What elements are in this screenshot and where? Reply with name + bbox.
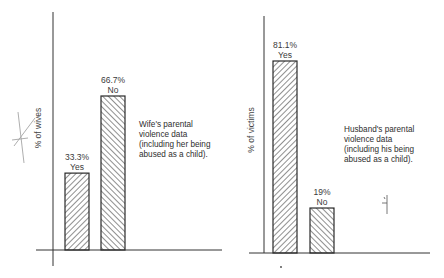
annotation: Wife's parental violence data (including… bbox=[139, 120, 213, 159]
bars: 81.1%Yes19%No bbox=[273, 40, 334, 253]
figure: % of wives 33.3%Yes66.7%No Wife's parent… bbox=[0, 0, 444, 278]
annotation-line: Husband's parental bbox=[344, 125, 414, 134]
value-label: 33.3% bbox=[65, 152, 90, 162]
chart-victims: % of victims 81.1%Yes19%No Husband's par… bbox=[246, 16, 430, 268]
annotation-line: violence data bbox=[139, 130, 188, 139]
chart-wives: % of wives 33.3%Yes66.7%No Wife's parent… bbox=[12, 12, 222, 266]
pencil-mark bbox=[382, 195, 387, 214]
bar-yes bbox=[273, 61, 297, 253]
annotation: Husband's parental violence data (includ… bbox=[344, 125, 417, 164]
value-label: 81.1% bbox=[273, 40, 298, 50]
bar-yes bbox=[65, 173, 89, 250]
annotation-line: Wife's parental bbox=[139, 120, 193, 129]
annotation-line: abused as a child). bbox=[139, 150, 208, 159]
bars: 33.3%Yes66.7%No bbox=[65, 75, 126, 250]
annotation-line: (including his being bbox=[344, 145, 415, 154]
annotation-line: violence data bbox=[344, 135, 393, 144]
bar-no bbox=[101, 96, 125, 250]
dot-mark bbox=[280, 266, 282, 268]
bar-no bbox=[310, 208, 334, 253]
category-label: No bbox=[108, 85, 119, 95]
y-axis-label: % of victims bbox=[246, 107, 256, 152]
annotation-line: (including her being bbox=[139, 140, 211, 149]
annotation-line: abused as a child). bbox=[344, 155, 413, 164]
category-label: Yes bbox=[278, 50, 292, 60]
value-label: 66.7% bbox=[101, 75, 126, 85]
value-label: 19% bbox=[313, 187, 330, 197]
category-label: Yes bbox=[70, 162, 84, 172]
pencil-mark bbox=[12, 112, 35, 163]
category-label: No bbox=[317, 197, 328, 207]
y-axis-label: % of wives bbox=[33, 108, 43, 149]
